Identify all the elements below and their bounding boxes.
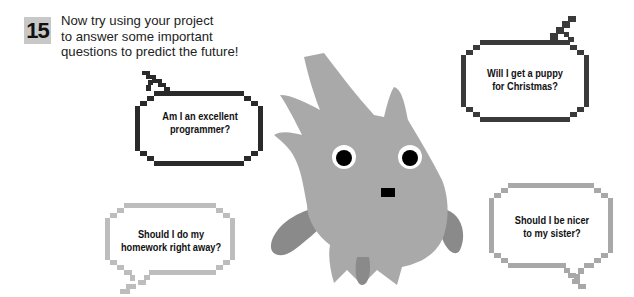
creature-body (274, 53, 448, 285)
bubble-text-puppy: Will I get a puppy for Christmas? (472, 67, 578, 93)
gobo-sprite (262, 45, 477, 290)
bubble-text-sister: Should I be nicer to my sister? (500, 214, 604, 240)
step-instructions: Now try using your project to answer som… (61, 13, 238, 60)
creature-nose (381, 188, 395, 197)
instruction-line: to answer some important (61, 29, 238, 45)
instruction-line: Now try using your project (61, 13, 238, 29)
step-number-badge: 15 (24, 17, 51, 44)
bubble-text-homework: Should I do my homework right away? (117, 228, 224, 254)
bubble-text-excellent: Am I an excellent programmer? (147, 110, 253, 136)
eye-left-pupil (336, 150, 352, 166)
creature-leg (356, 257, 370, 285)
eye-right-pupil (402, 150, 418, 166)
instruction-line: questions to predict the future! (61, 44, 238, 60)
